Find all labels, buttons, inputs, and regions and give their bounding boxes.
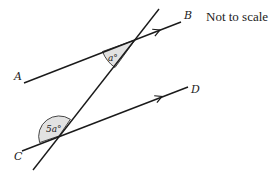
- point-label-d: D: [190, 83, 200, 96]
- line-ab: [24, 22, 181, 83]
- point-label-a: A: [13, 70, 22, 83]
- point-label-c: C: [14, 150, 23, 163]
- geometry-diagram: A B C D a° 5a° Not to scale: [0, 0, 275, 182]
- angle-label-a: a°: [108, 53, 118, 63]
- line-cd: [22, 87, 188, 151]
- transversal-line: [33, 9, 159, 170]
- angle-label-5a: 5a°: [46, 124, 62, 134]
- not-to-scale-note: Not to scale: [206, 9, 268, 25]
- point-label-b: B: [183, 9, 192, 22]
- diagram-canvas: A B C D a° 5a°: [0, 0, 275, 182]
